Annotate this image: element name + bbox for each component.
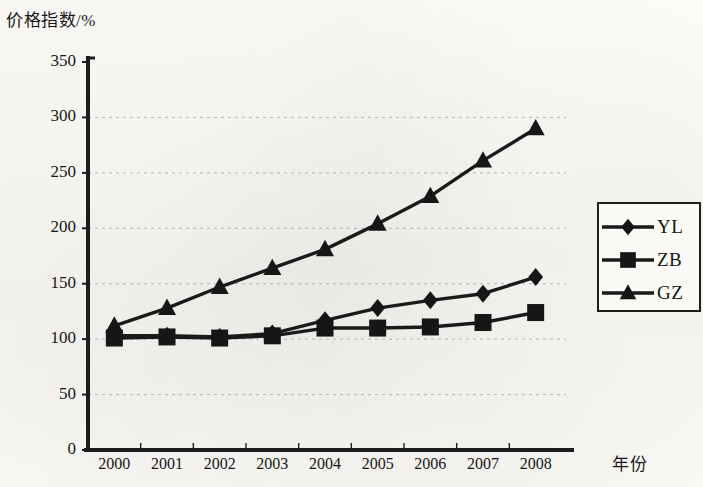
chart-page: 价格指数/% 年份 050100150200250300350 20002001… <box>0 0 703 487</box>
marker-square <box>369 320 386 337</box>
y-tick-label: 250 <box>14 162 76 182</box>
y-tick-label: 50 <box>14 384 76 404</box>
legend-item-GZ: GZ <box>599 276 703 310</box>
marker-triangle <box>421 187 439 203</box>
legend-swatch-square <box>599 247 657 273</box>
x-tick-label-2007: 2007 <box>453 455 513 473</box>
marker-square <box>527 304 544 321</box>
marker-triangle <box>369 214 387 230</box>
y-tick-label: 200 <box>14 217 76 237</box>
marker-square <box>620 252 636 268</box>
y-tick-label: 100 <box>14 328 76 348</box>
x-tick-label-2005: 2005 <box>348 455 408 473</box>
y-tick-label: 150 <box>14 273 76 293</box>
legend-swatch-diamond <box>599 214 657 240</box>
legend-label-ZB: ZB <box>657 250 682 271</box>
x-axis-title: 年份 <box>612 450 647 475</box>
marker-triangle <box>474 151 492 167</box>
marker-square <box>422 318 439 335</box>
marker-diamond <box>621 219 635 236</box>
chart-legend: YLZBGZ <box>597 202 701 312</box>
marker-square <box>317 320 334 337</box>
marker-square <box>159 328 176 345</box>
x-tick-label-2008: 2008 <box>506 455 566 473</box>
legend-item-YL: YL <box>599 210 703 244</box>
series-GZ <box>105 119 544 333</box>
x-tick-label-2000: 2000 <box>84 455 144 473</box>
marker-diamond <box>476 285 491 303</box>
x-tick-label-2003: 2003 <box>242 455 302 473</box>
y-axis-title: 价格指数/% <box>6 6 96 31</box>
legend-item-ZB: ZB <box>599 243 703 277</box>
x-tick-label-2004: 2004 <box>295 455 355 473</box>
y-tick-label: 300 <box>14 106 76 126</box>
y-tick-label: 350 <box>14 51 76 71</box>
y-tick-label: 0 <box>14 439 76 459</box>
marker-square <box>475 314 492 331</box>
legend-label-YL: YL <box>657 217 683 238</box>
x-tick-label-2002: 2002 <box>190 455 250 473</box>
x-tick-label-2001: 2001 <box>137 455 197 473</box>
marker-diamond <box>370 299 385 317</box>
marker-triangle <box>527 119 545 135</box>
x-tick-label-2006: 2006 <box>400 455 460 473</box>
legend-swatch-triangle <box>599 280 657 306</box>
marker-square <box>264 327 281 344</box>
marker-square <box>211 330 228 347</box>
marker-diamond <box>423 291 438 309</box>
legend-label-GZ: GZ <box>657 283 683 304</box>
